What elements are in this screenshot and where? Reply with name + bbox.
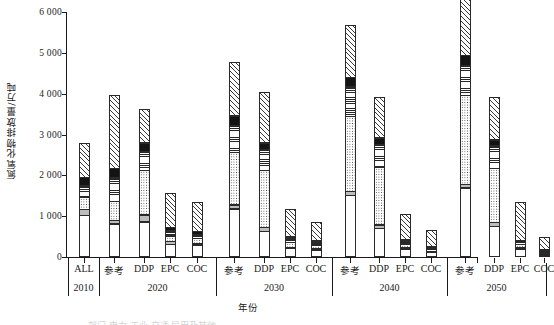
- bar-stack: [460, 0, 471, 257]
- bar-segment: [79, 186, 90, 197]
- bar-segment: [374, 228, 385, 257]
- bar-segment: [79, 197, 90, 210]
- y-tick-label: 6 000: [16, 7, 62, 17]
- y-tick-mark: [62, 53, 66, 54]
- y-tick-label: 1 000: [16, 211, 62, 221]
- bar-segment: [539, 237, 550, 249]
- bar-segment: [345, 25, 356, 78]
- bar-segment: [374, 97, 385, 138]
- bar-segment: [139, 109, 150, 143]
- y-tick-mark: [62, 12, 66, 13]
- x-category-label: COC: [534, 263, 554, 274]
- bar-segment: [460, 95, 471, 184]
- x-axis-line: [66, 257, 478, 258]
- axis-frame-edge: [546, 263, 547, 296]
- bar-segment: [109, 178, 120, 202]
- y-tick-mark: [62, 257, 66, 258]
- bar-segment: [165, 244, 176, 257]
- y-tick-mark: [62, 94, 66, 95]
- bar-segment: [229, 152, 240, 205]
- bar-segment: [489, 226, 500, 257]
- bar-segment: [259, 231, 270, 257]
- bar-segment: [515, 202, 526, 241]
- x-year-label: 2030: [264, 282, 284, 293]
- group-separator: [99, 263, 100, 296]
- bar-segment: [489, 168, 500, 223]
- x-tick-mark: [544, 258, 545, 263]
- bar-segment: [400, 214, 411, 239]
- bar-segment: [192, 202, 203, 231]
- bar-stack: [311, 222, 322, 257]
- x-category-label: EPC: [396, 263, 414, 274]
- bar-segment: [345, 87, 356, 117]
- x-category-label: EPC: [161, 263, 179, 274]
- bar-segment: [139, 151, 150, 171]
- x-year-label: 2010: [74, 282, 94, 293]
- bar-stack: [345, 25, 356, 257]
- y-tick-label: 4 000: [16, 89, 62, 99]
- plot-area: [66, 12, 478, 257]
- bar-stack: [79, 143, 90, 257]
- group-separator: [216, 263, 217, 296]
- bar-segment: [109, 95, 120, 169]
- bar-stack: [285, 209, 296, 257]
- bar-stack: [229, 62, 240, 257]
- bar-stack: [374, 98, 385, 257]
- x-tick-mark: [84, 258, 85, 263]
- y-tick-label: 5 000: [16, 48, 62, 58]
- bar-segment: [109, 201, 120, 221]
- bar-segment: [460, 65, 471, 96]
- bar-segment: [192, 245, 203, 257]
- x-tick-mark: [197, 258, 198, 263]
- x-category-label: COC: [421, 263, 442, 274]
- x-category-label: COC: [187, 263, 208, 274]
- bar-segment: [79, 215, 90, 257]
- bar-segment: [426, 230, 437, 247]
- x-category-label: DDP: [254, 263, 274, 274]
- x-tick-mark: [114, 258, 115, 263]
- x-tick-mark: [350, 258, 351, 263]
- x-category-label: EPC: [511, 263, 529, 274]
- axis-frame-edge: [68, 263, 69, 296]
- bar-segment: [311, 250, 322, 257]
- x-tick-mark: [520, 258, 521, 263]
- group-separator: [447, 263, 448, 296]
- bar-segment: [489, 146, 500, 169]
- bar-stack: [192, 203, 203, 257]
- x-category-label: 参考: [340, 263, 360, 277]
- bar-segment: [515, 249, 526, 257]
- x-category-label: DDP: [484, 263, 504, 274]
- bar-segment: [311, 222, 322, 242]
- x-tick-mark: [264, 258, 265, 263]
- x-axis-title: 年份: [0, 300, 495, 314]
- x-category-label: DDP: [369, 263, 389, 274]
- bar-stack: [539, 238, 550, 257]
- x-tick-mark: [494, 258, 495, 263]
- bar-stack: [165, 194, 176, 257]
- bar-segment: [400, 249, 411, 257]
- x-category-label: 参考: [455, 263, 475, 277]
- bar-segment: [139, 170, 150, 215]
- x-tick-mark: [316, 258, 317, 263]
- bar-stack: [400, 215, 411, 257]
- bar-segment: [229, 62, 240, 117]
- x-tick-mark: [290, 258, 291, 263]
- bar-stack: [426, 231, 437, 257]
- x-axis-end-tick: [477, 257, 478, 263]
- bar-stack: [515, 202, 526, 257]
- y-tick-mark: [62, 135, 66, 136]
- bar-segment: [285, 248, 296, 257]
- y-tick-mark: [62, 175, 66, 176]
- y-tick-mark: [62, 216, 66, 217]
- bar-segment: [229, 125, 240, 153]
- bar-segment: [460, 0, 471, 56]
- x-category-label: EPC: [281, 263, 299, 274]
- bar-segment: [345, 195, 356, 257]
- x-category-label: ALL: [74, 263, 93, 274]
- x-year-label: 2040: [380, 282, 400, 293]
- bar-segment: [489, 97, 500, 140]
- bar-stack: [489, 98, 500, 257]
- bar-segment: [259, 149, 270, 171]
- bar-segment: [539, 255, 550, 257]
